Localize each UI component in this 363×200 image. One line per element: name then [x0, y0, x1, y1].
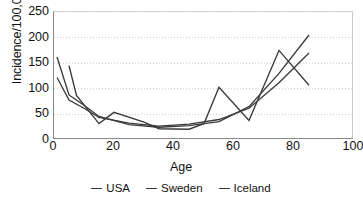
legend-label: USA [106, 182, 130, 194]
y-tick-label: 150 [28, 56, 49, 69]
y-axis-tick-labels: 050100150200250 [8, 0, 52, 150]
x-tick-label: 40 [166, 140, 180, 154]
legend-line-icon [91, 188, 102, 189]
legend-item-iceland[interactable]: Iceland [219, 182, 271, 194]
y-tick-label: 200 [28, 30, 49, 43]
gridlines [54, 12, 354, 114]
x-tick-label: 100 [343, 140, 363, 154]
x-tick-label: 20 [106, 140, 120, 154]
x-axis-title: Age [0, 160, 362, 174]
y-tick-label: 50 [35, 107, 49, 120]
y-tick-label: 100 [28, 82, 49, 95]
legend-item-usa[interactable]: USA [91, 182, 130, 194]
chart-svg [54, 12, 354, 140]
legend-label: Iceland [234, 182, 271, 194]
legend-line-icon [219, 188, 230, 189]
series-line-sweden [57, 35, 309, 127]
x-axis-tick-labels: 020406080100 [0, 140, 362, 156]
legend-label: Sweden [161, 182, 203, 194]
legend-item-sweden[interactable]: Sweden [146, 182, 203, 194]
legend-line-icon [146, 188, 157, 189]
x-tick-label: 80 [286, 140, 300, 154]
x-tick-label: 0 [50, 140, 57, 154]
y-tick-label: 250 [28, 5, 49, 18]
x-tick-label: 60 [226, 140, 240, 154]
series-line-usa [57, 53, 309, 126]
plot-area [53, 11, 353, 139]
series-lines [57, 35, 309, 129]
chart-legend: USASwedenIceland [0, 180, 362, 196]
